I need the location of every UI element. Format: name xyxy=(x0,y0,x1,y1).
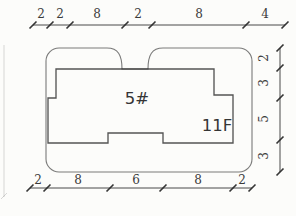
right-dim-label: 2 xyxy=(257,54,271,62)
floor-count-label: 11F xyxy=(202,116,233,135)
right-dim-label: 3 xyxy=(257,79,271,87)
drawing-sheet: 2 2 8 2 8 4 2 3 5 3 2 8 6 8 2 5# 11F xyxy=(0,0,296,216)
top-dim-label: 2 xyxy=(37,7,45,21)
right-dim-label: 3 xyxy=(257,152,271,160)
outer-site-outline xyxy=(46,48,252,172)
bottom-dim-label: 2 xyxy=(34,173,42,187)
bottom-dim-label: 8 xyxy=(194,173,202,187)
top-dim-label: 2 xyxy=(134,7,142,21)
bottom-dim-label: 8 xyxy=(74,173,82,187)
right-dim-label: 5 xyxy=(257,115,271,123)
bottom-dim-label: 6 xyxy=(132,173,140,187)
top-dim-label: 8 xyxy=(93,7,101,21)
top-dim-label: 2 xyxy=(56,7,64,21)
bottom-dim-label: 2 xyxy=(238,173,246,187)
building-number-label: 5# xyxy=(125,89,149,108)
top-dim-label: 4 xyxy=(261,7,269,21)
top-dim-label: 8 xyxy=(195,7,203,21)
floor-plan-drawing: 2 2 8 2 8 4 2 3 5 3 2 8 6 8 2 5# 11F xyxy=(0,0,296,216)
scan-artifact-line xyxy=(1,45,7,199)
